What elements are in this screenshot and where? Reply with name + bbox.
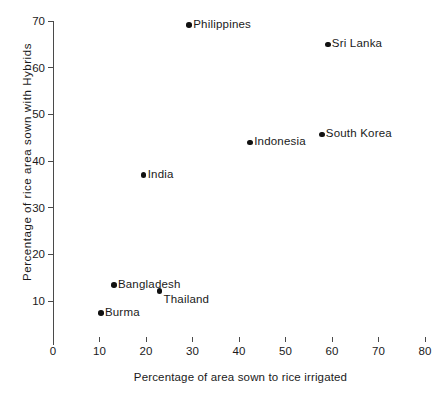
data-point	[111, 282, 117, 288]
x-tick-mark	[285, 337, 286, 342]
data-point-label: Philippines	[193, 18, 251, 30]
y-axis-title: Percentage of rice area sown with Hybrid…	[18, 0, 36, 332]
y-tick-mark	[48, 161, 53, 162]
x-tick-label: 80	[410, 345, 440, 357]
data-point-label: Bangladesh	[118, 278, 181, 290]
x-tick-label: 70	[364, 345, 394, 357]
x-tick-label: 20	[131, 345, 161, 357]
x-tick-mark	[146, 337, 147, 342]
data-point-label: Sri Lanka	[332, 37, 382, 49]
data-point-label: Burma	[105, 306, 140, 318]
x-tick-mark	[425, 337, 426, 342]
data-point	[325, 42, 331, 48]
data-point	[98, 310, 104, 316]
x-tick-mark	[378, 337, 379, 342]
y-tick-mark	[48, 67, 53, 68]
y-tick-mark	[48, 301, 53, 302]
y-tick-mark	[48, 114, 53, 115]
x-tick-label: 50	[271, 345, 301, 357]
y-tick-mark	[48, 254, 53, 255]
data-point	[319, 132, 325, 138]
y-axis-line	[53, 21, 54, 345]
data-point	[247, 140, 253, 146]
data-point-label: Thailand	[163, 293, 209, 305]
scatter-plot: 10203040506070 01020304050607080 BurmaBa…	[0, 0, 443, 398]
data-point	[141, 172, 147, 178]
y-tick-mark	[48, 207, 53, 208]
x-tick-label: 40	[224, 345, 254, 357]
x-tick-mark	[239, 337, 240, 342]
x-tick-label: 60	[317, 345, 347, 357]
x-tick-label: 30	[178, 345, 208, 357]
x-tick-label: 0	[38, 345, 68, 357]
x-tick-mark	[192, 337, 193, 342]
data-point	[157, 288, 163, 294]
y-tick-mark	[48, 21, 53, 22]
data-point-label: South Korea	[326, 127, 392, 139]
x-tick-mark	[99, 337, 100, 342]
data-point-label: Indonesia	[254, 135, 306, 147]
x-axis-title: Percentage of area sown to rice irrigate…	[53, 371, 428, 383]
data-point-label: India	[148, 168, 174, 180]
x-tick-mark	[332, 337, 333, 342]
x-tick-label: 10	[85, 345, 115, 357]
data-point	[186, 22, 192, 28]
